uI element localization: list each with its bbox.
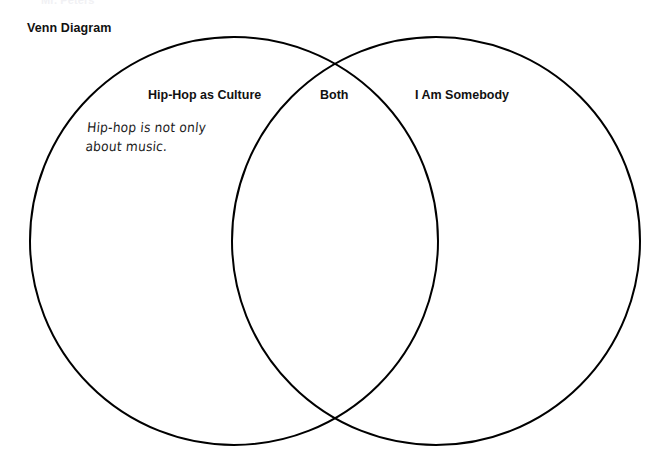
venn-label-both: Both (318, 88, 350, 102)
venn-diagram-canvas (0, 0, 666, 468)
venn-diagram-worksheet: Mr. Peters Venn Diagram Hip-Hop as Cultu… (0, 0, 666, 468)
venn-label-left: Hip-Hop as Culture (146, 88, 263, 102)
venn-note-left-circle[interactable]: Hip-hop is not only about music. (85, 118, 265, 156)
venn-label-right: I Am Somebody (413, 88, 511, 102)
